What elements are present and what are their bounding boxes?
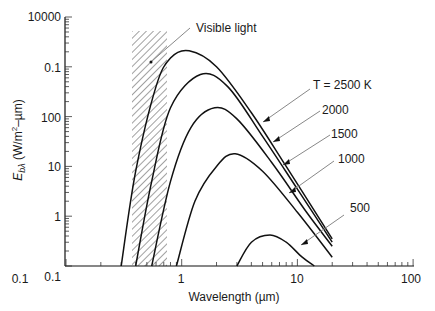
t2500-pointer (263, 89, 310, 122)
x-tick-label: 100 (401, 272, 421, 286)
x-tick-label: 10 (290, 272, 304, 286)
y-tick-label: 10 (48, 160, 62, 174)
t1500-label: 1500 (331, 127, 358, 141)
arrow-head-icon (273, 136, 280, 142)
t1000-pointer (289, 161, 334, 193)
y-tick-label: 1 (54, 210, 61, 224)
t2500-label: T = 2500 K (313, 78, 372, 92)
t2000-label: 2000 (322, 103, 349, 117)
t500-label: 500 (350, 201, 370, 215)
curve-500k (237, 235, 314, 266)
x-tick-label: 0.1 (12, 272, 29, 286)
t1000-label: 1000 (338, 152, 365, 166)
y-tick-label: 0.1 (44, 61, 61, 75)
t2000-pointer (273, 111, 320, 142)
visible-light-pointer-head (150, 61, 153, 64)
x-axis-title: Wavelength (µm) (188, 290, 279, 304)
visible-light-label: Visible light (196, 21, 257, 35)
blackbody-spectrum-chart: 10000 0.1 100 10 1 0.1 0.1 1 10 100 Wave… (0, 0, 435, 311)
y-axis-ticks (65, 17, 72, 266)
y-axis-title: Ebλ (W/m2–µm) (10, 99, 27, 181)
t1500-pointer (283, 135, 330, 165)
t500-pointer (301, 215, 344, 245)
y-tick-label: 100 (41, 111, 61, 125)
visible-light-band (132, 31, 167, 266)
y-tick-label: 10000 (28, 10, 62, 24)
x-tick-label: 1 (178, 272, 185, 286)
arrow-head-icon (263, 116, 270, 122)
curve-1000k (176, 154, 332, 266)
arrow-head-icon (301, 239, 308, 245)
y-tick-label: 0.1 (44, 270, 61, 284)
